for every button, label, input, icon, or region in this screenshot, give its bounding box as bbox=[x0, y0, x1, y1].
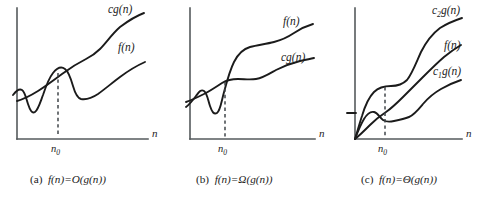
panel-b-cg-label: cg(n) bbox=[281, 51, 305, 64]
panel-a-x-axis-label: n bbox=[152, 127, 158, 139]
figure-svg: cg(n) f(n) n n0 (a) f(n)=O(g(n)) bbox=[0, 0, 492, 200]
panel-c-c2g-curve bbox=[355, 18, 462, 139]
panel-c-caption: (c) f(n)=Θ(g(n)) bbox=[361, 173, 437, 186]
panel-b-x-axis-label: n bbox=[319, 127, 325, 139]
panel-a: cg(n) f(n) n n0 (a) f(n)=O(g(n)) bbox=[13, 3, 158, 186]
panel-a-f-label: f(n) bbox=[118, 41, 135, 54]
panel-c-c1g-label: c1g(n) bbox=[433, 65, 461, 80]
panel-b-f-curve bbox=[186, 24, 313, 114]
asymptotic-notation-figure: cg(n) f(n) n n0 (a) f(n)=O(g(n)) bbox=[0, 0, 492, 200]
panel-c-c2g-label: c2g(n) bbox=[432, 4, 460, 19]
panel-b-threshold-label: n0 bbox=[218, 143, 227, 157]
panel-a-cg-label: cg(n) bbox=[108, 3, 132, 16]
panel-b-caption: (b) f(n)=Ω(g(n)) bbox=[196, 173, 273, 186]
panel-b-cg-curve bbox=[186, 58, 314, 102]
panel-c-x-axis-label: n bbox=[466, 127, 472, 139]
panel-c-f-label: f(n) bbox=[444, 39, 461, 52]
panel-c-threshold-label: n0 bbox=[378, 143, 387, 157]
panel-a-f-curve bbox=[13, 62, 145, 113]
panel-c: c2g(n) f(n) c1g(n) n n0 (c) f(n)=Θ(g(n)) bbox=[347, 4, 472, 186]
panel-a-cg-curve bbox=[17, 13, 144, 101]
panel-c-c1g-curve bbox=[355, 80, 461, 139]
panel-a-threshold-label: n0 bbox=[51, 143, 60, 157]
panel-a-caption: (a) f(n)=O(g(n)) bbox=[30, 173, 106, 186]
panel-c-f-curve bbox=[355, 45, 461, 139]
panel-b: f(n) cg(n) n n0 (b) f(n)=Ω(g(n)) bbox=[186, 8, 325, 186]
panel-b-f-label: f(n) bbox=[283, 15, 300, 28]
